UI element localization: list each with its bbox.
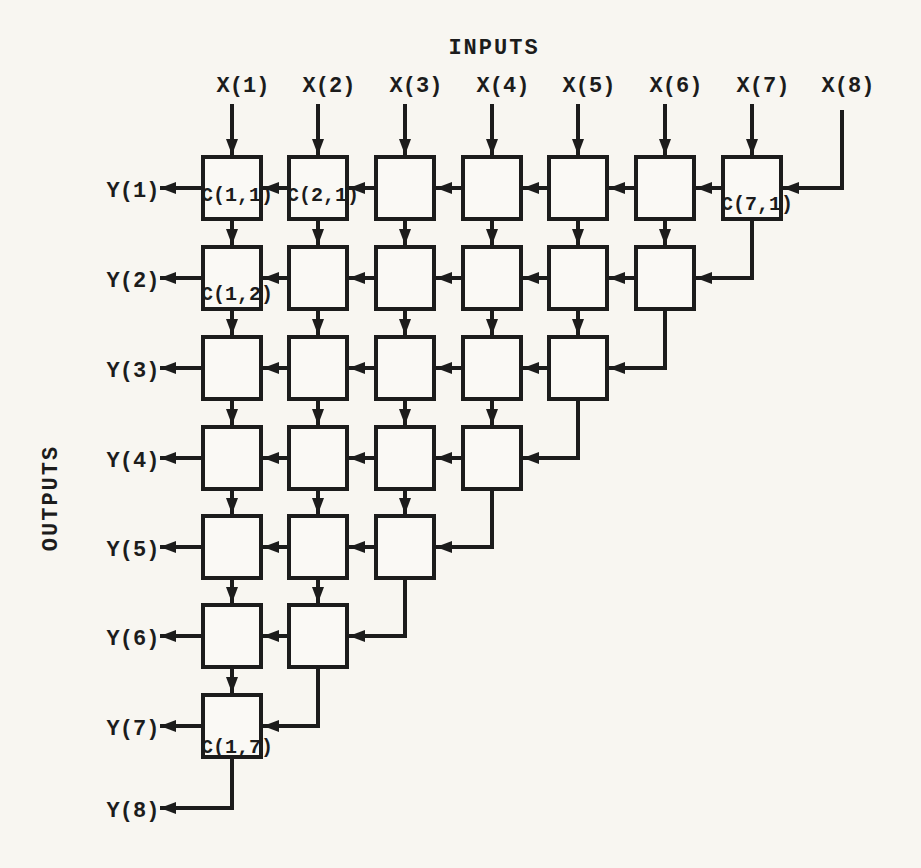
cell-r4-c3: [376, 427, 434, 489]
cell-r5-c3: [376, 516, 434, 578]
input-label: X(5): [563, 74, 616, 99]
cell-r2-c2: [289, 247, 347, 309]
output-label: Y(8): [107, 799, 160, 824]
cell-label: C(1,1): [201, 184, 273, 207]
cell-label: C(2,1): [287, 184, 359, 207]
input-label: X(1): [217, 74, 270, 99]
triangular-filter-array-diagram: INPUTS OUTPUTS X(1)X(2)X(3)X(4)X(5)X(6)X…: [0, 0, 921, 868]
cell-r1-c6: [636, 157, 694, 219]
cell-label: C(7,1): [721, 193, 793, 216]
output-label: Y(3): [107, 359, 160, 384]
cell-r3-c1: [203, 337, 261, 399]
cell-r4-c1: [203, 427, 261, 489]
input-label: X(8): [822, 74, 875, 99]
cell-r2-c4: [463, 247, 521, 309]
cell-r2-c6: [636, 247, 694, 309]
cell-r2-c3: [376, 247, 434, 309]
output-label: Y(6): [107, 627, 160, 652]
row-end-route-arrow: [696, 219, 752, 278]
inputs-title: INPUTS: [448, 36, 539, 61]
cell-r4-c4: [463, 427, 521, 489]
cell-r6-c1: [203, 605, 261, 667]
row-end-route-arrow: [436, 489, 492, 547]
scanned-diagram-page: INPUTS OUTPUTS X(1)X(2)X(3)X(4)X(5)X(6)X…: [0, 0, 921, 868]
cell-r1-c5: [549, 157, 607, 219]
cell-r5-c1: [203, 516, 261, 578]
cell-r1-c4: [463, 157, 521, 219]
cell-r4-c2: [289, 427, 347, 489]
cell-label: C(1,7): [201, 736, 273, 759]
output-label: Y(1): [107, 179, 160, 204]
output-label: Y(2): [107, 269, 160, 294]
cell-label: C(1,2): [201, 283, 273, 306]
row-end-route-arrow: [263, 667, 318, 726]
output-label: Y(7): [107, 717, 160, 742]
cell-r3-c5: [549, 337, 607, 399]
input-label: X(7): [737, 74, 790, 99]
row-end-route-arrow: [523, 399, 578, 458]
input-label: X(6): [650, 74, 703, 99]
input-label: X(2): [303, 74, 356, 99]
cell-r3-c3: [376, 337, 434, 399]
row-end-route-arrow: [349, 578, 405, 636]
output-arrow-y8: [160, 757, 232, 808]
cell-r2-c5: [549, 247, 607, 309]
row-end-route-arrow: [609, 309, 665, 368]
outputs-title: OUTPUTS: [39, 445, 64, 551]
cell-r3-c2: [289, 337, 347, 399]
cell-r6-c2: [289, 605, 347, 667]
input-arrow-x8: [783, 110, 842, 188]
input-label: X(3): [390, 74, 443, 99]
input-label: X(4): [477, 74, 530, 99]
cell-r1-c3: [376, 157, 434, 219]
output-label: Y(5): [107, 538, 160, 563]
output-label: Y(4): [107, 449, 160, 474]
cell-r5-c2: [289, 516, 347, 578]
cell-r3-c4: [463, 337, 521, 399]
array-cells-and-arrows: X(1)X(2)X(3)X(4)X(5)X(6)X(7)X(8)Y(1)Y(2)…: [107, 74, 875, 824]
